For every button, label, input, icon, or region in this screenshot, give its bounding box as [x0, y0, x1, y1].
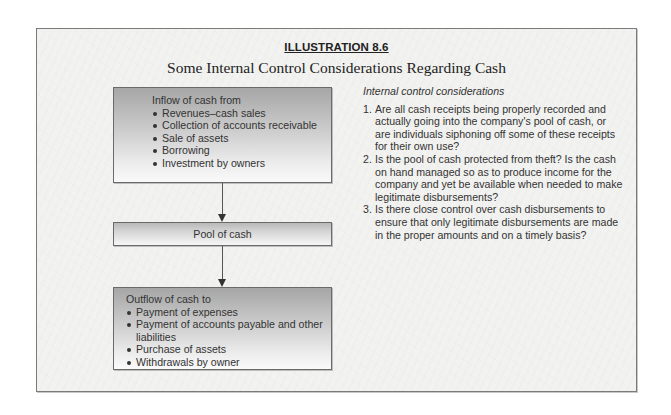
outflow-item: Payment of expenses	[126, 306, 331, 319]
considerations-list: 1. Are all cash receipts being properly …	[363, 103, 623, 242]
consideration-item: 2. Is the pool of cash protected from th…	[363, 153, 623, 203]
arrow-down-icon	[218, 214, 226, 222]
outflow-item: Withdrawals by owner	[126, 356, 331, 369]
considerations-heading: Internal control considerations	[363, 85, 623, 98]
consideration-text: Is the pool of cash protected from theft…	[375, 153, 622, 203]
consideration-text: Are all cash receipts being properly rec…	[375, 103, 615, 153]
inflow-item: Borrowing	[152, 144, 331, 157]
outflow-item: Payment of accounts payable and other li…	[126, 318, 331, 343]
illustration-frame: ILLUSTRATION 8.6 Some Internal Control C…	[36, 28, 637, 392]
considerations-panel: Internal control considerations 1. Are a…	[363, 85, 623, 241]
inflow-box: Inflow of cash from Revenues–cash sales …	[113, 87, 332, 183]
inflow-item: Revenues–cash sales	[152, 107, 331, 120]
arrow-down-icon	[218, 279, 226, 287]
illustration-title: Some Internal Control Considerations Reg…	[37, 59, 636, 77]
inflow-item: Investment by owners	[152, 157, 331, 170]
outflow-box: Outflow of cash to Payment of expenses P…	[113, 287, 332, 370]
outflow-list: Payment of expenses Payment of accounts …	[126, 306, 331, 369]
consideration-number: 2.	[363, 153, 372, 166]
consideration-number: 3.	[363, 203, 372, 216]
consideration-number: 1.	[363, 103, 372, 116]
consideration-item: 1. Are all cash receipts being properly …	[363, 103, 623, 153]
outflow-heading: Outflow of cash to	[126, 293, 331, 306]
consideration-text: Is there close control over cash disburs…	[375, 203, 618, 240]
connector-line	[222, 183, 223, 215]
pool-label: Pool of cash	[193, 228, 251, 240]
inflow-heading: Inflow of cash from	[152, 94, 331, 107]
consideration-item: 3. Is there close control over cash disb…	[363, 203, 623, 241]
outflow-item: Purchase of assets	[126, 343, 331, 356]
inflow-list: Revenues–cash sales Collection of accoun…	[152, 107, 331, 170]
pool-of-cash-box: Pool of cash	[113, 222, 332, 246]
illustration-label: ILLUSTRATION 8.6	[37, 41, 636, 53]
inflow-item: Sale of assets	[152, 132, 331, 145]
inflow-item: Collection of accounts receivable	[152, 119, 331, 132]
connector-line	[222, 246, 223, 280]
